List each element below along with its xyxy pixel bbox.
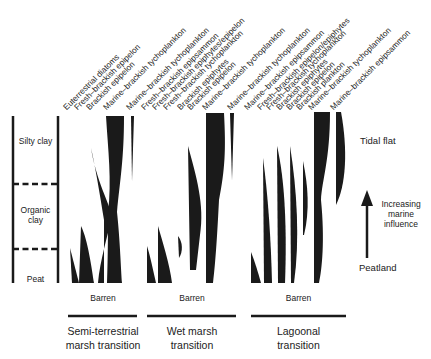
peatland-label: Peatland bbox=[359, 262, 397, 273]
panel-2-curves bbox=[147, 113, 234, 283]
label-line: marine bbox=[376, 209, 426, 219]
panel-title-semi-terrestrial: Semi-terrestrial marsh transition bbox=[60, 324, 146, 352]
title-line: Semi-terrestrial bbox=[60, 324, 146, 338]
label-line: influence bbox=[376, 219, 426, 229]
increasing-marine-influence-label: Increasing marine influence bbox=[376, 199, 426, 229]
title-line: marsh transition bbox=[60, 338, 146, 352]
title-line: Lagoonal bbox=[251, 324, 346, 338]
title-line: Wet marsh bbox=[147, 324, 237, 338]
unit-label: Silty clay bbox=[19, 136, 53, 146]
barren-label: Barren bbox=[251, 293, 346, 303]
up-arrow-icon bbox=[361, 190, 373, 258]
label-line: Increasing bbox=[376, 199, 426, 209]
barren-label: Barren bbox=[147, 293, 237, 303]
unit-label: Peat bbox=[27, 274, 45, 284]
panel-3-curves bbox=[251, 112, 345, 283]
lithology-organic-clay: Organic clay bbox=[13, 205, 58, 225]
panel-title-wet-marsh: Wet marsh transition bbox=[147, 324, 237, 352]
barren-label: Barren bbox=[68, 293, 138, 303]
lithology-silty-clay: Silty clay bbox=[13, 136, 58, 146]
panel-1-curves bbox=[70, 116, 134, 283]
tidal-flat-label: Tidal flat bbox=[360, 135, 396, 146]
unit-label: Organic clay bbox=[21, 205, 51, 225]
panel-title-lagoonal: Lagoonal transition bbox=[251, 324, 346, 352]
title-line: transition bbox=[147, 338, 237, 352]
title-line: transition bbox=[251, 338, 346, 352]
lithology-peat: Peat bbox=[13, 274, 58, 284]
